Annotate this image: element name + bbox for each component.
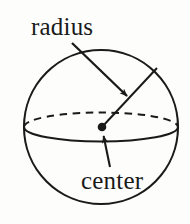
radius-label: radius	[31, 14, 93, 39]
center-label: center	[81, 168, 143, 193]
center-point-dot	[98, 123, 107, 132]
radius-line-segment	[102, 68, 157, 127]
sphere-diagram-figure: radius center	[0, 0, 190, 224]
